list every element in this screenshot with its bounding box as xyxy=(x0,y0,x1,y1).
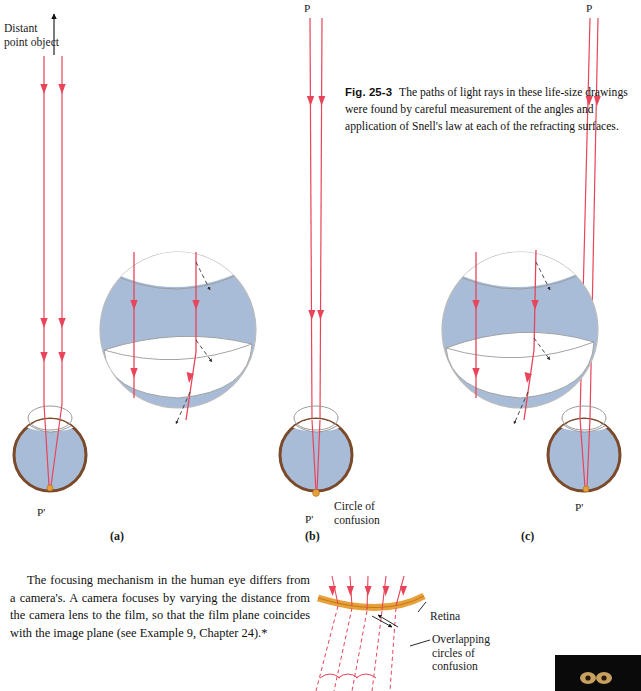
overlapping-circles-label: Overlapping circles of confusion xyxy=(432,633,502,674)
retina-label: Retina xyxy=(430,610,460,624)
point-p-prime-label-a: P' xyxy=(37,506,45,518)
point-p-label-b: P xyxy=(304,2,310,14)
distant-point-object-label: Distant point object xyxy=(4,22,60,49)
panel-label-c: (c) xyxy=(521,529,534,544)
eye-b xyxy=(278,400,356,496)
point-p-prime-label-b: P' xyxy=(305,513,313,525)
body-paragraph: The focusing mechanism in the human eye … xyxy=(10,572,310,642)
eye-a xyxy=(8,396,94,491)
point-p-label-c: P xyxy=(586,2,592,14)
panel-label-a: (a) xyxy=(110,529,124,544)
eye-c xyxy=(546,400,624,492)
figure-caption: Fig. 25-3The paths of light rays in thes… xyxy=(345,84,630,135)
point-p-prime-label-c: P' xyxy=(575,501,583,513)
panel-label-b: (b) xyxy=(305,529,320,544)
eye-photograph xyxy=(555,655,641,691)
panel-b-rays xyxy=(307,18,326,420)
retina-diagram xyxy=(316,576,430,691)
magnified-eye-a xyxy=(100,240,258,424)
magnified-eye-c xyxy=(442,240,600,424)
figure-page: Distant point object Fig. 25-3The paths … xyxy=(0,0,641,691)
panel-a-rays xyxy=(40,56,65,404)
circle-of-confusion-label: Circle of confusion xyxy=(334,500,398,527)
figure-number: Fig. 25-3 xyxy=(345,86,392,98)
